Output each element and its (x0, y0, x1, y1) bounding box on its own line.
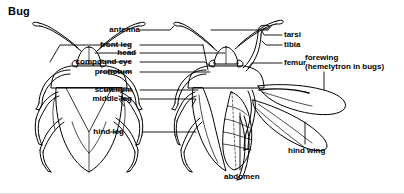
label-tarsi: tarsi (284, 30, 301, 39)
label-forewing: forewing (hemelytron in bugs) (305, 53, 384, 71)
bug-illustration (0, 0, 404, 194)
label-hind-leg: hind leg (82, 127, 124, 136)
label-hind-wing: hind wing (288, 146, 325, 155)
bug-anatomy-figure: Bug (0, 0, 404, 194)
label-femur: femur (284, 58, 306, 67)
label-tibia: tibia (284, 40, 300, 49)
label-forewing-line1: forewing (305, 53, 338, 62)
label-forewing-line2: (hemelytron in bugs) (305, 62, 384, 71)
label-middle-leg: middle leg (84, 94, 132, 103)
label-antenna: antenna (96, 25, 140, 34)
label-head: head (96, 48, 136, 57)
label-abdomen: abdomen (224, 172, 260, 181)
label-pronotum: pronotum (88, 67, 132, 76)
label-compound-eye: compound eye (70, 57, 132, 66)
right-bug-dorsal-spread (172, 20, 346, 180)
label-scutellum: scutellum (86, 85, 132, 94)
